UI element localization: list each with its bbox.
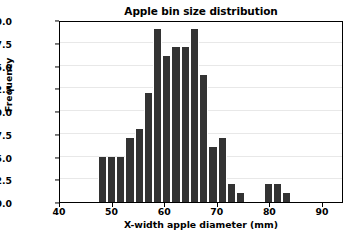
y-tick-label: 10.0 bbox=[0, 107, 12, 118]
histogram-bar bbox=[282, 193, 291, 202]
y-tick-label: 15.0 bbox=[0, 61, 12, 72]
histogram-bar bbox=[199, 75, 208, 202]
y-tick-label: 5.0 bbox=[0, 152, 12, 163]
histogram-bar bbox=[190, 29, 199, 202]
histogram-bar bbox=[208, 147, 217, 202]
histogram-bar bbox=[181, 47, 190, 202]
histogram-bar bbox=[218, 138, 227, 202]
x-tick-label: 40 bbox=[42, 206, 76, 217]
histogram-bar bbox=[171, 47, 180, 202]
histogram-bar bbox=[107, 157, 116, 203]
x-tick-label: 70 bbox=[200, 206, 234, 217]
histogram-bar bbox=[264, 184, 273, 202]
histogram-bars bbox=[60, 22, 342, 202]
y-tick-label: 20.0 bbox=[0, 16, 12, 27]
histogram-bar bbox=[273, 184, 282, 202]
x-tick-label: 80 bbox=[252, 206, 286, 217]
histogram-figure: Apple bin size distribution Frequency 0.… bbox=[0, 0, 360, 240]
histogram-bar bbox=[125, 138, 134, 202]
chart-title: Apple bin size distribution bbox=[59, 5, 343, 17]
plot-area bbox=[59, 21, 343, 203]
x-tick-label: 50 bbox=[95, 206, 129, 217]
histogram-bar bbox=[116, 157, 125, 203]
histogram-bar bbox=[153, 29, 162, 202]
y-tick-label: 2.5 bbox=[0, 175, 12, 186]
y-tick-label: 7.5 bbox=[0, 129, 12, 140]
histogram-bar bbox=[162, 56, 171, 202]
y-tick-label: 12.5 bbox=[0, 84, 12, 95]
histogram-bar bbox=[227, 184, 236, 202]
histogram-bar bbox=[236, 193, 245, 202]
x-tick-label: 60 bbox=[147, 206, 181, 217]
histogram-bar bbox=[144, 93, 153, 202]
y-tick-label: 0.0 bbox=[0, 198, 12, 209]
x-axis-label: X-width apple diameter (mm) bbox=[59, 219, 343, 230]
x-tick-label: 90 bbox=[305, 206, 339, 217]
histogram-bar bbox=[98, 157, 107, 203]
y-tick-label: 17.5 bbox=[0, 38, 12, 49]
histogram-bar bbox=[135, 129, 144, 202]
